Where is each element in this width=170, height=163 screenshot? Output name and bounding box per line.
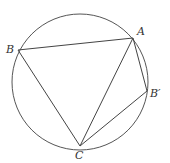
label-point-b-prime: B′ — [149, 87, 161, 100]
segment-b-c — [18, 50, 80, 146]
chords — [18, 38, 147, 146]
label-point-c: C — [75, 149, 84, 162]
circumcircle — [12, 14, 148, 150]
segment-a-bp — [133, 38, 147, 91]
segment-b-a — [18, 38, 133, 50]
label-point-a: A — [136, 25, 145, 38]
inscribed-quadrilateral-diagram: A B B′ C — [0, 0, 170, 163]
label-point-b: B — [5, 43, 14, 56]
segment-a-c — [80, 38, 133, 146]
